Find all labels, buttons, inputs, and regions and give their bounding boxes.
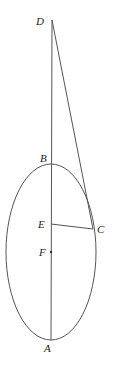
geometry-diagram: D B E C F A	[0, 0, 113, 368]
segment-EC	[51, 224, 93, 229]
segment-DC	[52, 20, 93, 229]
label-F: F	[38, 246, 46, 258]
label-E: E	[37, 218, 45, 230]
focus-point-F	[50, 251, 52, 253]
label-B: B	[40, 152, 47, 164]
label-A: A	[43, 342, 51, 354]
label-C: C	[97, 223, 105, 235]
segment-DA	[51, 20, 52, 340]
label-D: D	[35, 15, 44, 27]
